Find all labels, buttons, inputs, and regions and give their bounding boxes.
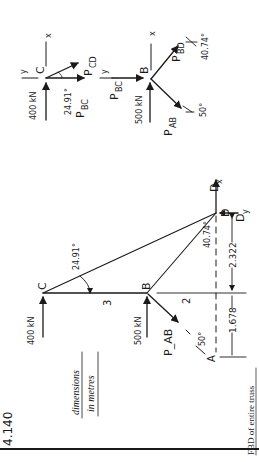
reaction-dx-label: D x	[208, 179, 224, 192]
svg-text:x: x	[215, 179, 224, 184]
y-axis-label: y	[19, 69, 28, 74]
reaction-dy-label: D y	[234, 209, 250, 222]
units-note-line1: dimensions	[70, 370, 81, 415]
dim-2322-label: 2.322	[228, 242, 238, 268]
ab-dash-1	[186, 330, 190, 334]
svg-text:BC: BC	[81, 99, 90, 110]
dim-1678-label: 1.678	[228, 307, 238, 333]
angle-arc-c-main	[80, 276, 90, 293]
svg-text:P: P	[108, 93, 121, 100]
angle-marker-ab	[183, 106, 192, 112]
angle-bd-label: 40.74°	[201, 33, 210, 60]
truss-main: 24.91° C 400 kN 3 B 500 kN P_AB 50° A 2 …	[27, 179, 250, 362]
load-400-label: 400 kN	[29, 92, 38, 120]
caption: FBD of entire truss	[246, 368, 256, 455]
fbd-joint-b: y P BC x B 500 kN P BD 40.74° P AB	[100, 31, 210, 136]
angle-a-label: 50°	[198, 332, 207, 346]
fbd-joint-c: y x C 400 kN 24.91° P BC P CD	[19, 33, 98, 120]
angle-ab-label-fbd: 50°	[199, 103, 208, 117]
joint-c-label: C	[34, 66, 47, 74]
x-axis-label-b: x	[148, 31, 157, 36]
load-500-main-label: 500 kN	[134, 317, 143, 345]
joint-b-main-label: B	[140, 282, 153, 290]
angle-c-main-label: 24.91°	[72, 243, 81, 270]
svg-text:y: y	[241, 209, 250, 214]
load-400-main-label: 400 kN	[27, 317, 36, 345]
angle-arc-c	[58, 72, 62, 78]
caption-text: FBD of entire truss	[246, 385, 256, 455]
svg-text:P: P	[162, 129, 175, 136]
svg-text:BD: BD	[177, 42, 186, 54]
p-ab-label: P AB	[162, 117, 178, 136]
p-ab-arrow	[151, 79, 181, 108]
svg-text:P: P	[170, 55, 183, 62]
p-cd-label: P CD	[82, 56, 98, 76]
svg-text:P: P	[82, 69, 95, 76]
angle-c-label: 24.91°	[64, 88, 73, 115]
truss-fbd-diagram: y x C 400 kN 24.91° P BC P CD y P	[0, 0, 259, 462]
problem-number: 4.140	[1, 412, 15, 446]
angle-marker-bd	[186, 37, 196, 46]
load-500-label-fbd: 500 kN	[135, 96, 144, 124]
svg-text:P_AB: P_AB	[162, 329, 175, 356]
dim-2-label: 2	[181, 298, 192, 304]
p-bc-label: P BC	[74, 99, 90, 118]
joint-c-main-label: C	[36, 282, 49, 290]
joint-b-label-fbd: B	[138, 66, 151, 74]
svg-text:P: P	[74, 111, 87, 118]
p-ab-main-arrow	[148, 294, 178, 322]
p-ab-main-label: P_AB	[162, 329, 175, 356]
p-bc-label-b: P BC	[108, 81, 124, 100]
svg-text:CD: CD	[89, 56, 98, 68]
joint-a-label: A	[206, 355, 217, 362]
member-cd	[43, 213, 216, 293]
svg-text:AB: AB	[169, 117, 178, 128]
y-axis-label-b: y	[100, 69, 109, 74]
units-note: dimensions in metres	[70, 352, 98, 418]
units-note-line2: in metres	[85, 375, 96, 412]
ab-dash-2	[196, 346, 205, 354]
angle-d-label: 40.74°	[203, 221, 212, 248]
x-axis-label: x	[44, 33, 53, 38]
svg-text:BC: BC	[115, 81, 124, 92]
dim-3-label: 3	[102, 300, 113, 306]
